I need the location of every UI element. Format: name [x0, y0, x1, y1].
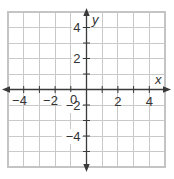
y-tick-label-neg4: −4	[66, 129, 81, 144]
y-axis-down-arrow-icon	[83, 164, 89, 172]
y-tick-label-pos2: 2	[73, 51, 80, 66]
x-axis-label: x	[154, 72, 162, 87]
x-tick-label-neg4: −4	[12, 93, 27, 108]
y-axis-label: y	[91, 12, 100, 27]
x-tick-label-pos4: 4	[146, 94, 153, 109]
coordinate-plane: −4 −2 0 2 4 4 2 −2 −4 y x	[0, 0, 174, 179]
y-tick-label-pos4: 4	[73, 20, 80, 35]
label-backgrounds	[62, 20, 82, 144]
x-tick-label-neg2: −2	[43, 93, 58, 108]
x-axis-left-arrow-icon	[2, 86, 10, 92]
x-axis-right-arrow-icon	[163, 86, 171, 92]
x-tick-label-pos2: 2	[114, 94, 121, 109]
y-tick-label-neg2: −2	[66, 98, 81, 113]
